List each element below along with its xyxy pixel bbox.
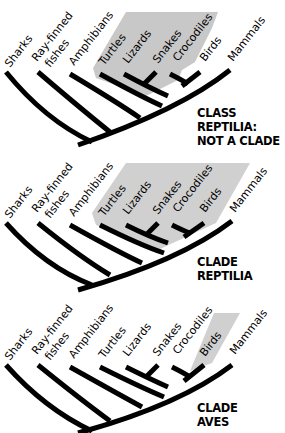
caption-line-2: AVES [197, 415, 238, 429]
caption-clade-reptilia: CLADE REPTILIA [197, 255, 252, 283]
taxon-labels: Sharks Ray-finned fishes Amphibians Turt… [2, 302, 270, 363]
cladogram-3: Sharks Ray-finned fishes Amphibians Turt… [0, 287, 285, 433]
label-mammals: Mammals [225, 14, 268, 64]
caption-class-reptilia: CLASS REPTILIA: NOT A CLADE [197, 106, 285, 148]
panel-class-reptilia: Sharks Ray-finned fishes Amphibians Turt… [0, 0, 285, 145]
label-lizards: Lizards [120, 320, 154, 359]
label-sharks: Sharks [2, 32, 35, 70]
panel-clade-reptilia: Sharks Ray-finned fishes Amphibians Turt… [0, 145, 285, 287]
caption-line-1: CLADE [197, 255, 252, 269]
panel-clade-aves: Sharks Ray-finned fishes Amphibians Turt… [0, 287, 285, 433]
label-sharks: Sharks [2, 183, 35, 221]
caption-line-1: CLASS REPTILIA: [197, 106, 285, 134]
caption-line-1: CLADE [197, 401, 238, 415]
caption-line-2: REPTILIA [197, 269, 252, 283]
caption-clade-aves: CLADE AVES [197, 401, 238, 429]
label-sharks: Sharks [2, 325, 35, 363]
